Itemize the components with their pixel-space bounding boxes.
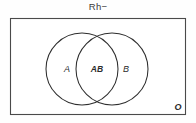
region-label-b: B bbox=[123, 64, 129, 74]
region-label-ab: AB bbox=[90, 64, 103, 74]
region-label-o: O bbox=[174, 102, 181, 112]
region-label-a: A bbox=[63, 64, 70, 74]
venn-diagram-canvas: A AB B O bbox=[0, 0, 196, 123]
venn-diagram-figure: Rh− A AB B O bbox=[0, 0, 196, 123]
